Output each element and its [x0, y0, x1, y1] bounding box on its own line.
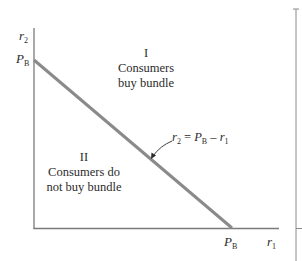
region-1-line2: buy bundle — [106, 76, 186, 91]
region-1-numeral: I — [106, 46, 186, 61]
region-1-label: I Consumers buy bundle — [106, 46, 186, 91]
y-intercept-var: P — [16, 51, 24, 66]
region-2-label: II Consumers do not buy bundle — [38, 150, 130, 195]
x-axis-sub: 1 — [272, 242, 276, 251]
bundling-diagram — [0, 0, 302, 261]
eq-p-var: P — [194, 130, 202, 144]
eq-lhs-sub: 2 — [177, 137, 181, 146]
eq-rhs-var: r — [220, 130, 225, 144]
equation-arrow — [153, 141, 172, 156]
line-equation-label: r2 = PB – r1 — [172, 131, 229, 144]
region-2-line1: Consumers do — [38, 165, 130, 180]
y-intercept-label: PB — [16, 52, 29, 65]
region-2-numeral: II — [38, 150, 130, 165]
eq-p-sub: B — [202, 137, 207, 146]
x-intercept-sub: B — [232, 242, 237, 251]
eq-equals: = — [181, 130, 194, 144]
region-1-line1: Consumers — [106, 61, 186, 76]
y-axis-sub: 2 — [24, 36, 28, 45]
eq-minus: – — [207, 130, 220, 144]
y-axis-label: r2 — [19, 29, 28, 42]
y-intercept-sub: B — [24, 59, 29, 68]
x-intercept-var: P — [224, 234, 232, 249]
region-2-line2: not buy bundle — [38, 180, 130, 195]
x-axis-label: r1 — [267, 235, 276, 248]
eq-rhs-sub: 1 — [225, 137, 229, 146]
x-intercept-label: PB — [224, 235, 237, 248]
